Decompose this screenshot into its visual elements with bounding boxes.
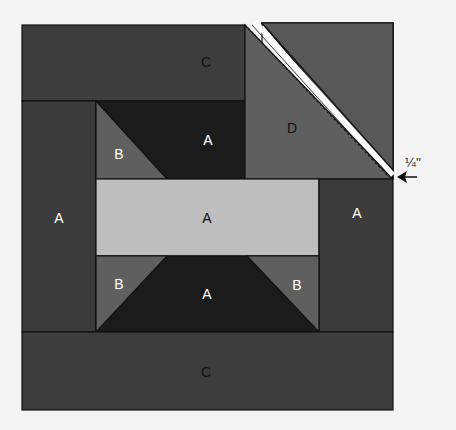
label-top-center-a: A <box>203 132 213 148</box>
piece-top-c <box>22 25 245 101</box>
quilt-block-diagram: C B A D A A A B A B C ¼'' <box>0 0 456 430</box>
seam-allowance-label: ¼'' <box>405 155 421 170</box>
left-arrow-icon <box>397 171 417 183</box>
label-bottom-c: C <box>201 364 211 380</box>
label-left-a: A <box>54 210 64 226</box>
label-bottom-center-a: A <box>202 286 212 302</box>
label-right-a: A <box>352 205 362 221</box>
label-top-left-b: B <box>114 146 123 162</box>
label-center-a: A <box>202 210 212 226</box>
label-bottom-left-b: B <box>114 276 123 292</box>
label-bottom-right-b: B <box>292 277 301 293</box>
piece-right-a <box>319 179 393 332</box>
label-top-c: C <box>201 54 211 70</box>
label-corner-d: D <box>287 120 297 136</box>
